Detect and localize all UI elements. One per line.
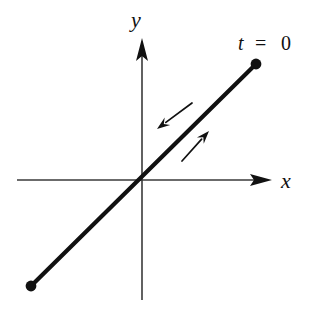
x-axis-label: x xyxy=(280,168,291,193)
phase-portrait-figure: y x t = 0 xyxy=(0,0,316,319)
parameter-operator: = xyxy=(255,32,266,54)
y-axis-label: y xyxy=(129,7,141,32)
figure-canvas: y x t = 0 xyxy=(0,0,316,319)
trajectory-start-point xyxy=(26,281,37,292)
parameter-value: 0 xyxy=(281,32,291,54)
parameter-variable: t xyxy=(238,32,244,54)
trajectory-end-point xyxy=(251,59,262,70)
